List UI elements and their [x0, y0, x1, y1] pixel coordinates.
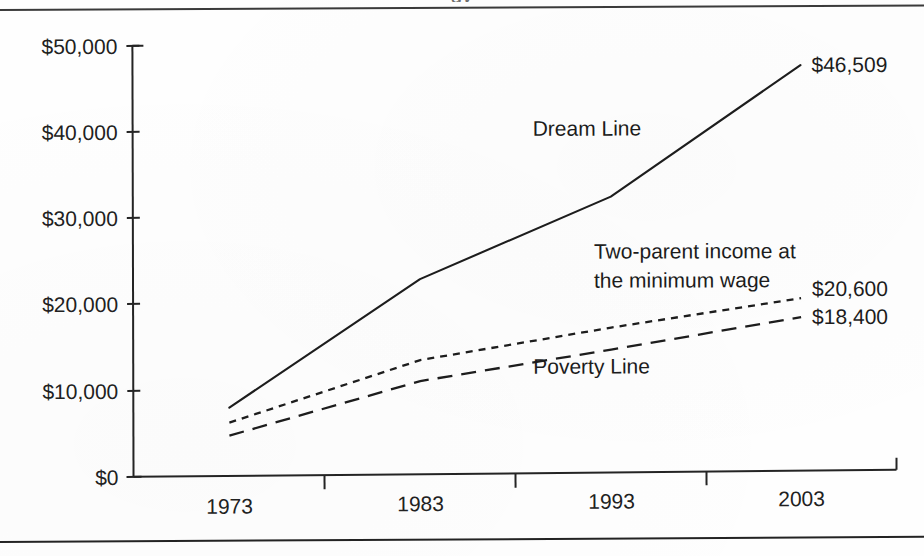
- end-label-dream-line: $46,509: [811, 53, 887, 76]
- series-line-dream-line: [228, 65, 801, 407]
- x-tick-label-2003: 2003: [778, 487, 825, 510]
- y-tick-label-0: $0: [95, 466, 118, 489]
- series-line-two-parent-income: [229, 298, 801, 422]
- y-tick-label-40000: $40,000: [42, 121, 118, 144]
- plot-area: $50,000 $40,000 $30,000 $20,000 $10,000 …: [0, 0, 924, 556]
- y-tick-label-10000: $10,000: [42, 380, 118, 403]
- y-axis: [132, 46, 133, 477]
- x-tick-label-1983: 1983: [397, 492, 444, 515]
- annotation-poverty-line: Poverty Line: [533, 355, 650, 378]
- y-tick-label-50000: $50,000: [41, 35, 117, 58]
- annotation-two-parent-income-line2: the minimum wage: [594, 268, 770, 291]
- y-tick-labels: $50,000 $40,000 $30,000 $20,000 $10,000 …: [41, 35, 118, 489]
- line-chart: $50,000 $40,000 $30,000 $20,000 $10,000 …: [0, 0, 924, 556]
- x-tick-label-1993: 1993: [588, 490, 635, 513]
- x-tick-labels: 1973 1983 1993 2003: [206, 487, 825, 518]
- y-tick-label-30000: $30,000: [42, 207, 118, 230]
- end-label-poverty-line: $18,400: [812, 305, 888, 328]
- annotation-dream-line: Dream Line: [533, 117, 642, 140]
- series-line-poverty-line: [229, 317, 801, 435]
- x-tick-label-1973: 1973: [206, 495, 253, 518]
- y-tick-label-20000: $20,000: [42, 293, 118, 316]
- figure-container: gy $50,000: [0, 0, 924, 556]
- annotation-two-parent-income-line1: Two-parent income at: [594, 239, 796, 263]
- end-label-two-parent-income: $20,600: [812, 277, 888, 300]
